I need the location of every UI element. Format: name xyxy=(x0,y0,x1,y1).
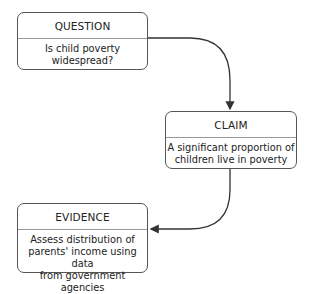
evidence-body-line: from government agencies xyxy=(18,270,147,294)
evidence-node: EVIDENCE Assess distribution of parents'… xyxy=(17,203,148,273)
arrow-claim-to-evidence xyxy=(151,168,230,229)
question-body-line: Is child poverty xyxy=(18,43,147,55)
claim-title: CLAIM xyxy=(166,112,296,138)
evidence-body-line: Assess distribution of xyxy=(18,234,147,246)
evidence-body-line: parents' income using data xyxy=(18,246,147,270)
evidence-body: Assess distribution of parents' income u… xyxy=(18,230,147,294)
question-body: Is child poverty widespread? xyxy=(18,39,147,67)
claim-node: CLAIM A significant proportion of childr… xyxy=(165,111,297,169)
claim-body-line: children live in poverty xyxy=(166,154,296,166)
question-node: QUESTION Is child poverty widespread? xyxy=(17,12,148,70)
question-title: QUESTION xyxy=(18,13,147,39)
question-body-line: widespread? xyxy=(18,55,147,67)
evidence-title: EVIDENCE xyxy=(18,204,147,230)
claim-body-line: A significant proportion of xyxy=(166,142,296,154)
arrow-question-to-claim xyxy=(148,38,230,109)
claim-body: A significant proportion of children liv… xyxy=(166,138,296,166)
